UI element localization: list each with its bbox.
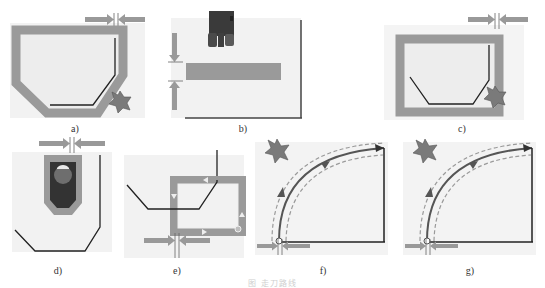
panel-d-drawing bbox=[10, 137, 115, 255]
panel-b-label: b) bbox=[228, 123, 258, 134]
panel-a-label: a) bbox=[60, 123, 90, 134]
panel-f-drawing bbox=[255, 137, 390, 255]
panel-e-drawing bbox=[124, 150, 249, 258]
panel-f bbox=[255, 137, 390, 255]
panel-c-label: c) bbox=[447, 123, 477, 134]
panel-b-drawing bbox=[165, 8, 310, 120]
panel-d-label: d) bbox=[43, 265, 73, 276]
tool-holder-icon bbox=[208, 11, 234, 47]
panel-c bbox=[384, 5, 534, 120]
panel-e bbox=[124, 150, 249, 258]
panel-g-label: g) bbox=[455, 265, 485, 276]
panel-b bbox=[165, 8, 310, 120]
figure-caption: 图 走刀路线 bbox=[0, 277, 545, 288]
width-arrows-icon bbox=[39, 137, 105, 153]
panel-a bbox=[5, 5, 150, 120]
panel-f-label: f) bbox=[308, 265, 338, 276]
panel-g-drawing bbox=[403, 137, 538, 255]
panel-c-drawing bbox=[384, 5, 534, 120]
slot-bar bbox=[186, 63, 281, 80]
panel-g bbox=[403, 137, 538, 255]
panel-a-drawing bbox=[5, 5, 150, 120]
panel-d bbox=[10, 137, 115, 255]
panel-e-label: e) bbox=[162, 265, 192, 276]
